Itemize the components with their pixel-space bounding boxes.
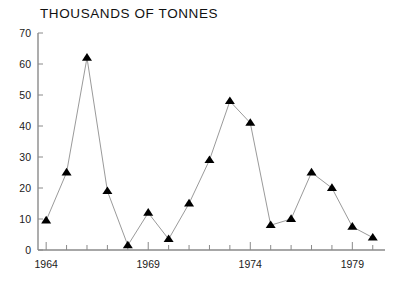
data-point-marker — [225, 96, 235, 104]
chart-page: THOUSANDS OF TONNES 010203040506070 1964… — [0, 0, 399, 287]
data-point-marker — [327, 183, 337, 191]
data-point-marker — [347, 222, 357, 230]
data-point-marker — [123, 241, 133, 249]
y-tick-label: 60 — [19, 58, 31, 70]
y-tick-label: 20 — [19, 182, 31, 194]
y-tick-label: 0 — [25, 244, 31, 256]
x-tick-label: 1964 — [34, 258, 58, 270]
data-point-marker — [143, 208, 153, 216]
x-tick-label: 1969 — [137, 258, 161, 270]
x-tick-label: 1979 — [341, 258, 365, 270]
y-axis-labels: 010203040506070 — [19, 27, 31, 256]
data-point-marker — [368, 233, 378, 241]
data-point-marker — [184, 199, 194, 207]
data-point-marker — [164, 234, 174, 242]
data-line — [46, 58, 373, 246]
line-chart-plot: 010203040506070 1964196919741979 — [0, 0, 399, 287]
data-markers — [41, 53, 378, 248]
y-axis-ticks — [38, 33, 43, 250]
data-point-marker — [62, 168, 72, 176]
x-axis-ticks — [46, 242, 373, 250]
y-tick-label: 40 — [19, 120, 31, 132]
x-tick-label: 1974 — [239, 258, 263, 270]
y-tick-label: 50 — [19, 89, 31, 101]
data-point-marker — [82, 53, 92, 61]
data-point-marker — [204, 155, 214, 163]
y-tick-label: 30 — [19, 151, 31, 163]
data-point-marker — [102, 186, 112, 194]
y-tick-label: 10 — [19, 213, 31, 225]
data-point-marker — [286, 214, 296, 222]
data-point-marker — [41, 216, 51, 224]
x-axis-labels: 1964196919741979 — [34, 258, 364, 270]
y-tick-label: 70 — [19, 27, 31, 39]
data-point-marker — [307, 168, 317, 176]
